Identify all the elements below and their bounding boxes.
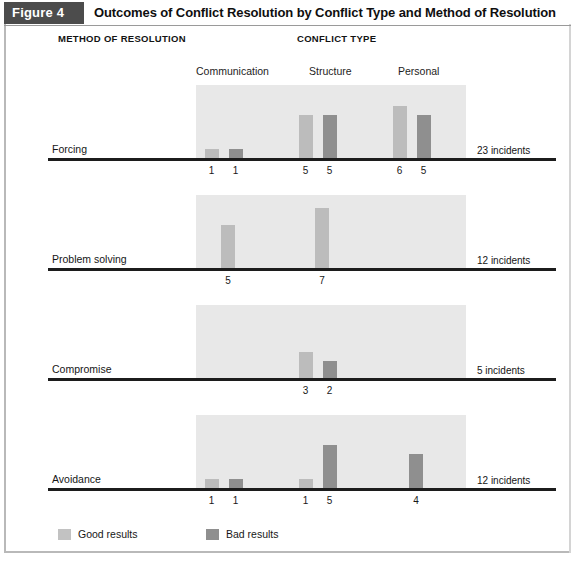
bar-value-label: 1: [223, 495, 249, 506]
bar-problem-solving-communication-good: [221, 225, 235, 268]
bar-value-label: 6: [387, 165, 413, 176]
bar-compromise-structure-bad: [323, 361, 337, 378]
column-label-communication: Communication: [196, 65, 269, 77]
bar-value-label: 3: [293, 385, 319, 396]
bar-value-label: 5: [411, 165, 437, 176]
legend-swatch-good-icon: [58, 529, 71, 540]
figure-number-label: Figure 4: [12, 5, 64, 20]
bar-avoidance-structure-good: [299, 479, 313, 488]
panel-baseline-axis: [48, 268, 556, 271]
bar-avoidance-communication-bad: [229, 479, 243, 488]
bar-compromise-structure-good: [299, 352, 313, 378]
row-label-problem-solving: Problem solving: [52, 253, 127, 265]
bar-value-label: 1: [199, 495, 225, 506]
panel-total-incidents: 12 incidents: [477, 255, 530, 266]
row-label-compromise: Compromise: [52, 363, 112, 375]
bar-forcing-structure-good: [299, 115, 313, 158]
bar-forcing-structure-bad: [323, 115, 337, 158]
row-label-avoidance: Avoidance: [52, 473, 101, 485]
bar-forcing-communication-good: [205, 149, 219, 158]
panel-total-incidents: 12 incidents: [477, 475, 530, 486]
legend-label-bad: Bad results: [226, 528, 279, 540]
bar-value-label: 1: [223, 165, 249, 176]
bar-value-label: 5: [317, 495, 343, 506]
bar-avoidance-communication-good: [205, 479, 219, 488]
panel-avoidance: 11154Avoidance12 incidents: [0, 415, 579, 525]
bar-value-label: 1: [199, 165, 225, 176]
legend-swatch-bad-icon: [206, 529, 219, 540]
figure-title-bar: Figure 4 Outcomes of Conflict Resolution…: [4, 2, 571, 24]
panel-compromise: 32Compromise5 incidents: [0, 305, 579, 415]
legend-item-bad-results: Bad results: [206, 528, 326, 542]
figure-title: Outcomes of Conflict Resolution by Confl…: [94, 5, 556, 20]
bar-value-label: 4: [403, 495, 429, 506]
panel-baseline-axis: [48, 488, 556, 491]
frame-bottom-border: [4, 551, 571, 553]
header-method-of-resolution: METHOD OF RESOLUTION: [58, 33, 186, 44]
bar-value-label: 7: [309, 275, 335, 286]
bar-problem-solving-structure-good: [315, 208, 329, 268]
bar-avoidance-structure-bad: [323, 445, 337, 488]
row-label-forcing: Forcing: [52, 143, 87, 155]
panel-baseline-axis: [48, 158, 556, 161]
panel-problem-solving: 57Problem solving12 incidents: [0, 195, 579, 305]
bar-forcing-personal-bad: [417, 115, 431, 158]
panel-plot-background: [196, 195, 466, 268]
column-label-structure: Structure: [309, 65, 352, 77]
legend-label-good: Good results: [78, 528, 138, 540]
panel-forcing: 115565Forcing23 incidents: [0, 85, 579, 195]
figure-root: Figure 4 Outcomes of Conflict Resolution…: [0, 0, 579, 566]
legend-item-good-results: Good results: [58, 528, 188, 542]
panel-baseline-axis: [48, 378, 556, 381]
bar-value-label: 1: [293, 495, 319, 506]
title-divider: [4, 25, 571, 26]
bar-value-label: 5: [317, 165, 343, 176]
panel-total-incidents: 5 incidents: [477, 365, 525, 376]
bar-value-label: 5: [215, 275, 241, 286]
bar-avoidance-personal-bad: [409, 454, 423, 488]
bar-forcing-communication-bad: [229, 149, 243, 158]
bar-value-label: 2: [317, 385, 343, 396]
column-label-personal: Personal: [398, 65, 439, 77]
header-conflict-type: CONFLICT TYPE: [297, 33, 376, 44]
bar-value-label: 5: [293, 165, 319, 176]
bar-forcing-personal-good: [393, 106, 407, 158]
panel-total-incidents: 23 incidents: [477, 145, 530, 156]
